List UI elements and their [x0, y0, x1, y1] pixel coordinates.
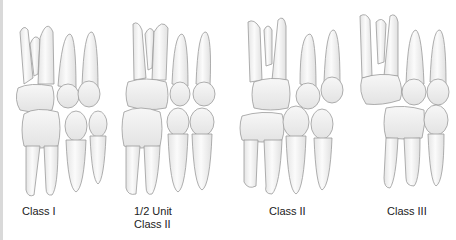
- label-class-3: Class III: [387, 205, 427, 218]
- label-line: Class II: [269, 205, 306, 217]
- label-class-1: Class I: [22, 205, 56, 218]
- label-line: Class II: [134, 218, 171, 230]
- panel-class-2: [240, 18, 343, 194]
- malocclusion-diagram: [0, 0, 456, 240]
- panel-half-unit-class-2: [122, 23, 215, 195]
- label-line: Class III: [387, 205, 427, 217]
- label-line: Class I: [22, 205, 56, 217]
- panel-class-1: [16, 26, 107, 196]
- label-half-unit-class-2: 1/2 Unit Class II: [134, 205, 172, 231]
- panel-class-3: [360, 15, 449, 188]
- label-class-2: Class II: [269, 205, 306, 218]
- label-line: 1/2 Unit: [134, 205, 172, 217]
